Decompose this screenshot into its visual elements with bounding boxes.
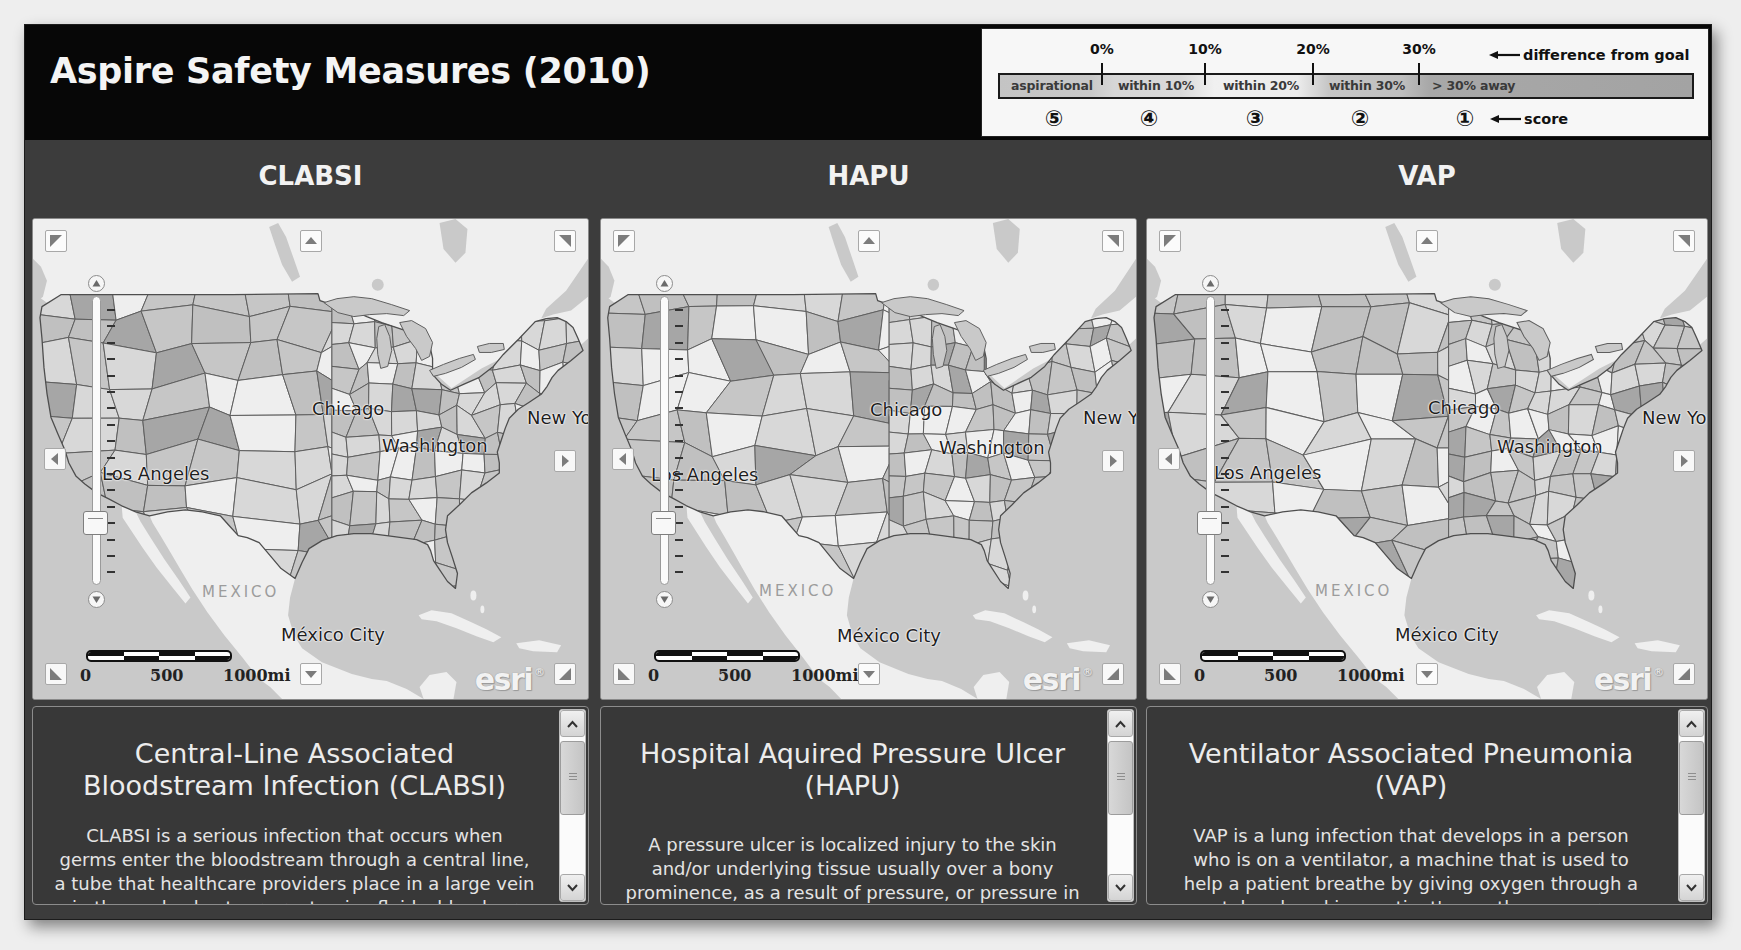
zoom-slider-thumb[interactable] — [83, 511, 108, 535]
pan-southeast-button[interactable] — [1102, 663, 1124, 685]
scale-bar — [654, 650, 800, 662]
pan-south-button[interactable] — [300, 663, 322, 685]
map-view[interactable]: Chicago Washington Los Angeles New York … — [32, 218, 589, 700]
zoom-in-button[interactable] — [656, 275, 673, 292]
map-region[interactable] — [1191, 338, 1239, 378]
map-label-chicago: Chicago — [870, 400, 942, 420]
pan-southwest-button[interactable] — [613, 663, 635, 685]
scale-bar — [1200, 650, 1346, 662]
map-region[interactable] — [889, 343, 913, 370]
scrollbar-thumb[interactable] — [1679, 741, 1704, 815]
scroll-up-button[interactable] — [1108, 710, 1133, 737]
description-title-line: Hospital Aquired Pressure Ulcer — [601, 738, 1104, 770]
zoom-out-button[interactable] — [1202, 591, 1219, 608]
arrow-northwest-icon — [49, 234, 63, 248]
pan-northeast-button[interactable] — [554, 230, 576, 252]
description-body-line: VAP is a lung infection that develops in… — [1147, 824, 1675, 848]
pan-northwest-button[interactable] — [45, 230, 67, 252]
zoom-slider-thumb[interactable] — [1197, 511, 1222, 535]
map-region[interactable] — [1449, 426, 1466, 457]
map-region[interactable] — [409, 477, 437, 500]
map-region[interactable] — [1437, 448, 1448, 487]
scrollbar-thumb[interactable] — [1108, 741, 1133, 815]
arrow-southeast-icon — [558, 667, 572, 681]
scroll-up-button[interactable] — [1679, 710, 1704, 737]
description-body-line: A pressure ulcer is localized injury to … — [601, 833, 1104, 857]
scale-bar — [86, 650, 232, 662]
pan-west-button[interactable] — [44, 448, 66, 470]
description-body-line: and/or underlying tissue usually over a … — [601, 857, 1104, 881]
pan-south-button[interactable] — [858, 663, 880, 685]
triangle-down-icon — [1206, 595, 1215, 604]
pan-southwest-button[interactable] — [45, 663, 67, 685]
description-panel[interactable]: Hospital Aquired Pressure Ulcer (HAPU) A… — [600, 706, 1137, 905]
pan-south-button[interactable] — [1416, 663, 1438, 685]
scrollbar-thumb[interactable] — [560, 741, 585, 815]
vertical-scrollbar[interactable] — [559, 709, 586, 902]
map-region[interactable] — [332, 454, 348, 476]
arrow-southwest-icon — [1163, 667, 1177, 681]
pan-north-button[interactable] — [858, 230, 880, 252]
scroll-down-button[interactable] — [1679, 874, 1704, 901]
map-region[interactable] — [910, 316, 932, 346]
pan-west-button[interactable] — [1158, 448, 1180, 470]
pan-northwest-button[interactable] — [613, 230, 635, 252]
map-region[interactable] — [350, 491, 377, 525]
pan-east-button[interactable] — [1673, 450, 1695, 472]
description-panel[interactable]: Ventilator Associated Pneumonia (VAP) VA… — [1146, 706, 1708, 905]
measure-heading: CLABSI — [32, 157, 589, 195]
map-region[interactable] — [1449, 492, 1464, 519]
scroll-down-button[interactable] — [1108, 874, 1133, 901]
zoom-out-button[interactable] — [656, 591, 673, 608]
description-title-line: Ventilator Associated Pneumonia — [1147, 738, 1675, 770]
zoom-slider-track[interactable] — [92, 296, 101, 585]
scroll-up-button[interactable] — [560, 710, 585, 737]
pan-west-button[interactable] — [612, 448, 634, 470]
description-body-line: help a patient breathe by giving oxygen … — [1147, 872, 1675, 896]
map-region[interactable] — [1029, 410, 1051, 435]
map-region[interactable] — [1397, 352, 1438, 375]
zoom-in-button[interactable] — [1202, 275, 1219, 292]
map-view[interactable]: Chicago Washington Los Angeles New York … — [1146, 218, 1708, 700]
esri-logo[interactable]: esri® — [1023, 655, 1093, 698]
pan-north-button[interactable] — [300, 230, 322, 252]
description-panel[interactable]: Central-Line Associated Bloodstream Infe… — [32, 706, 589, 905]
vertical-scrollbar[interactable] — [1678, 709, 1705, 902]
map-region[interactable] — [889, 366, 912, 390]
pan-northwest-button[interactable] — [1159, 230, 1181, 252]
pan-east-button[interactable] — [554, 450, 576, 472]
vertical-scrollbar[interactable] — [1107, 709, 1134, 902]
scroll-down-button[interactable] — [560, 874, 585, 901]
zoom-out-button[interactable] — [88, 591, 105, 608]
map-region[interactable] — [889, 320, 913, 345]
chevron-down-icon — [567, 884, 578, 892]
map-region[interactable] — [230, 415, 296, 452]
map-region[interactable] — [295, 414, 328, 451]
pan-southwest-button[interactable] — [1159, 663, 1181, 685]
pan-east-button[interactable] — [1102, 450, 1124, 472]
zoom-slider-thumb[interactable] — [651, 511, 676, 535]
pan-northeast-button[interactable] — [1102, 230, 1124, 252]
arrow-southeast-icon — [1106, 667, 1120, 681]
pan-northeast-button[interactable] — [1673, 230, 1695, 252]
map-region[interactable] — [889, 453, 906, 476]
pan-southeast-button[interactable] — [1673, 663, 1695, 685]
esri-logo[interactable]: esri® — [475, 655, 545, 698]
pan-southeast-button[interactable] — [554, 663, 576, 685]
map-view[interactable]: Chicago Washington Los Angeles New York … — [600, 218, 1137, 700]
map-region[interactable] — [115, 418, 146, 454]
legend-tick-mark — [1101, 63, 1103, 85]
map-label-new-york: New York — [527, 408, 589, 428]
pan-north-button[interactable] — [1416, 230, 1438, 252]
zoom-in-button[interactable] — [88, 275, 105, 292]
zoom-slider-track[interactable] — [660, 296, 669, 585]
map-region[interactable] — [712, 306, 756, 340]
land-bahamas — [1598, 605, 1602, 613]
esri-logo[interactable]: esri® — [1594, 655, 1664, 698]
map-region[interactable] — [389, 477, 412, 499]
arrow-northeast-icon — [1106, 234, 1120, 248]
map-label-chicago: Chicago — [312, 399, 384, 419]
arrow-right-icon — [1677, 454, 1691, 468]
land-bahamas — [480, 605, 484, 613]
zoom-slider-track[interactable] — [1206, 296, 1215, 585]
